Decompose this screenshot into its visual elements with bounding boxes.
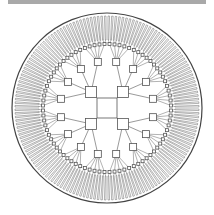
leaf-spoke (175, 102, 199, 105)
level3-node (152, 63, 155, 66)
level3-node (47, 80, 50, 83)
level1-node (117, 87, 128, 98)
level3-node (62, 153, 65, 156)
level3-node (70, 53, 73, 56)
level3-node (161, 75, 164, 78)
level3-node (167, 124, 170, 127)
level3-node (44, 124, 47, 127)
level3-node (55, 146, 58, 149)
level3-node (108, 170, 111, 173)
level3-node (66, 157, 69, 160)
level2-node (64, 131, 71, 138)
level3-node (50, 75, 53, 78)
level1-node (117, 118, 128, 129)
level3-node (169, 114, 172, 117)
leaf-spoke (175, 112, 199, 115)
level3-node (79, 48, 82, 51)
level3-node (166, 129, 169, 132)
level3-node (103, 170, 106, 173)
level3-node (42, 109, 45, 112)
level3-node (52, 71, 55, 74)
level3-node (169, 109, 172, 112)
level3-node (137, 162, 140, 165)
level3-node (159, 142, 162, 145)
level3-node (137, 51, 140, 54)
leaf-spoke (15, 102, 39, 105)
level3-node (166, 84, 169, 87)
level3-node (169, 104, 172, 107)
level3-node (42, 99, 45, 102)
level3-node (52, 142, 55, 145)
level3-node (168, 94, 171, 97)
level3-node (50, 138, 53, 141)
level3-node (59, 63, 62, 66)
level3-node (42, 114, 45, 117)
level2-node (57, 114, 64, 121)
root-node (97, 98, 117, 118)
level3-node (74, 51, 77, 54)
leaf-spoke (104, 16, 106, 40)
level1-node (86, 118, 97, 129)
leaf-spoke (15, 112, 39, 115)
level3-node (113, 43, 116, 46)
level2-node (77, 65, 84, 72)
leaf-spoke (108, 176, 110, 200)
level3-node (159, 71, 162, 74)
level3-node (108, 43, 111, 46)
level3-node (161, 138, 164, 141)
leaf-spoke (175, 105, 199, 107)
level2-node (150, 114, 157, 121)
leaf-spoke (175, 109, 199, 111)
level3-node (59, 150, 62, 153)
level3-node (88, 45, 91, 48)
level3-node (128, 46, 131, 49)
level3-node (141, 160, 144, 163)
level3-node (156, 67, 159, 70)
level3-node (167, 89, 170, 92)
leaf-spoke (15, 105, 39, 107)
level3-node (123, 168, 126, 171)
level3-node (113, 170, 116, 173)
level3-node (70, 160, 73, 163)
level2-node (113, 58, 120, 65)
level3-node (44, 89, 47, 92)
leaf-spoke (111, 16, 114, 40)
level3-node (43, 119, 46, 122)
level3-node (128, 167, 131, 170)
level3-node (83, 46, 86, 49)
level2-node (143, 131, 150, 138)
level3-node (79, 165, 82, 168)
level2-node (94, 58, 101, 65)
level2-node (130, 144, 137, 151)
level3-node (168, 119, 171, 122)
level3-node (145, 157, 148, 160)
level3-node (62, 60, 65, 63)
leaf-spoke (108, 16, 110, 40)
leaf-spoke (101, 176, 104, 200)
level2-node (64, 78, 71, 85)
level3-node (74, 162, 77, 165)
level2-node (57, 95, 64, 102)
level3-node (66, 56, 69, 59)
level3-node (152, 150, 155, 153)
level3-node (45, 129, 48, 132)
level3-node (47, 133, 50, 136)
level3-node (55, 67, 58, 70)
level3-node (156, 146, 159, 149)
leaf-spoke (101, 16, 104, 40)
level3-node (169, 99, 172, 102)
tree-nodes (42, 43, 173, 174)
level1-node (86, 87, 97, 98)
level3-node (141, 53, 144, 56)
level3-node (149, 60, 152, 63)
level2-node (130, 65, 137, 72)
level3-node (145, 56, 148, 59)
level3-node (43, 94, 46, 97)
level3-node (88, 168, 91, 171)
radial-tree-diagram (0, 0, 214, 215)
level3-node (42, 104, 45, 107)
level3-node (98, 43, 101, 46)
level3-node (45, 84, 48, 87)
level2-node (94, 151, 101, 158)
level3-node (103, 43, 106, 46)
